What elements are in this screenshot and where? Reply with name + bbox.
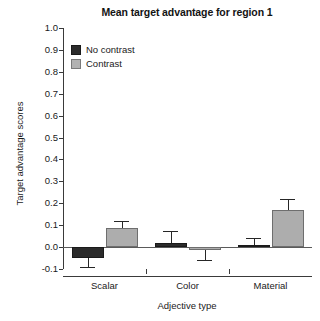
error-bar-cap [114, 221, 129, 222]
error-bar-stem [88, 258, 89, 267]
legend-item: Contrast [71, 57, 135, 70]
x-tick-mark [146, 269, 147, 274]
error-bar-cap [246, 238, 261, 239]
y-tick-mark [59, 159, 63, 160]
y-tick-label: 0.0 [45, 241, 58, 252]
legend: No contrastContrast [71, 43, 135, 71]
legend-label: No contrast [86, 44, 135, 55]
y-axis-line [63, 28, 64, 269]
y-tick-mark [59, 72, 63, 73]
y-tick-label: 0.1 [45, 219, 58, 230]
y-tick-label: 0.8 [45, 66, 58, 77]
error-bar-cap [80, 267, 95, 268]
legend-item: No contrast [71, 43, 135, 56]
error-bar-stem [205, 250, 206, 260]
error-bar-cap [197, 260, 212, 261]
y-tick-mark [59, 225, 63, 226]
page-title: Mean target advantage for region 1 [62, 6, 312, 18]
y-tick-mark [59, 50, 63, 51]
error-bar-cap [280, 199, 295, 200]
y-tick-mark [59, 269, 63, 270]
y-axis-title: Target advantage scores [14, 59, 25, 249]
y-tick-mark [59, 138, 63, 139]
y-tick-mark [59, 116, 63, 117]
y-tick-label: 0.6 [45, 110, 58, 121]
y-tick-label: 0.7 [45, 88, 58, 99]
x-axis-title: Adjective type [62, 300, 312, 311]
x-tick-mark [229, 269, 230, 274]
legend-label: Contrast [86, 58, 122, 69]
error-bar-cap [163, 231, 178, 232]
x-axis-line [63, 276, 312, 277]
bar [72, 247, 104, 258]
bar [272, 210, 304, 247]
bar-chart-figure: Mean target advantage for region 1 Targe… [0, 0, 320, 321]
error-bar-stem [171, 231, 172, 243]
y-tick-mark [59, 28, 63, 29]
bar [106, 228, 138, 247]
y-tick-label: 0.5 [45, 132, 58, 143]
y-tick-label: 0.3 [45, 175, 58, 186]
y-tick-label: -0.1 [42, 263, 58, 274]
y-tick-mark [59, 203, 63, 204]
y-tick-label: 0.9 [45, 44, 58, 55]
bar [238, 245, 270, 247]
x-category-label: Material [229, 280, 312, 291]
y-tick-label: 1.0 [45, 22, 58, 33]
y-tick-label: 0.2 [45, 197, 58, 208]
error-bar-stem [254, 238, 255, 245]
x-category-label: Color [146, 280, 229, 291]
y-tick-label: 0.4 [45, 153, 58, 164]
bar [155, 243, 187, 247]
legend-swatch-icon [71, 45, 81, 55]
y-tick-mark [59, 181, 63, 182]
legend-swatch-icon [71, 59, 81, 69]
error-bar-stem [288, 199, 289, 210]
x-category-label: Scalar [63, 280, 146, 291]
y-tick-mark [59, 94, 63, 95]
